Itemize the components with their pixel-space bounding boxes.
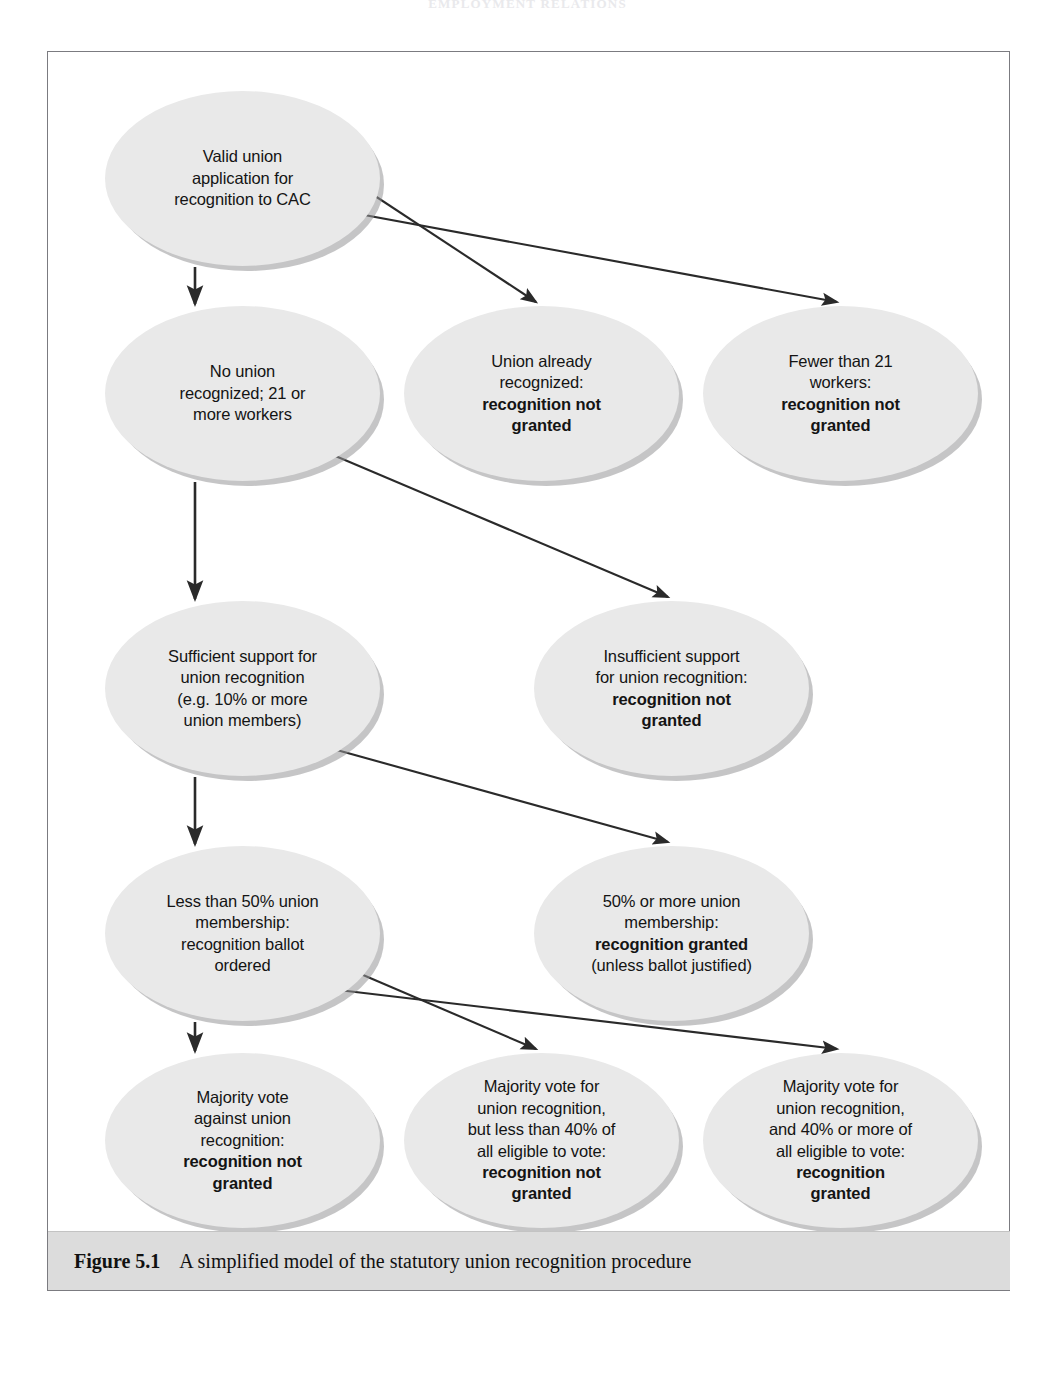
node-label-line: recognition: (200, 1131, 284, 1149)
node-label-line: more workers (193, 405, 292, 423)
node-label-line: all eligible to vote: (477, 1142, 606, 1160)
flowchart-node-majority-against: Majority voteagainst unionrecognition:re… (105, 1053, 380, 1228)
flowchart-node-sufficient-support: Sufficient support forunion recognition(… (105, 601, 380, 776)
node-label-line: all eligible to vote: (776, 1142, 905, 1160)
figure-caption-body: A simplified model of the statutory unio… (179, 1250, 691, 1272)
node-label-line: granted (512, 1184, 572, 1202)
node-label-line: granted (642, 711, 702, 729)
node-label-line: Fewer than 21 (788, 352, 892, 370)
flowchart-node-majority-for-over-40: Majority vote forunion recognition,and 4… (703, 1053, 978, 1228)
node-label: Sufficient support forunion recognition(… (158, 646, 327, 732)
node-label-line: Valid union (203, 147, 282, 165)
node-label: Majority vote forunion recognition,and 4… (759, 1076, 922, 1205)
flowchart-node-less-than-50-percent: Less than 50% unionmembership:recognitio… (105, 846, 380, 1021)
node-label-line: granted (213, 1174, 273, 1192)
node-label-line: union members) (184, 711, 302, 729)
node-label-line: workers: (810, 373, 872, 391)
node-label-line: recognition not (482, 1163, 601, 1181)
flowchart-node-fifty-percent-or-more: 50% or more unionmembership:recognition … (534, 846, 809, 1021)
node-label: Majority vote forunion recognition,but l… (458, 1076, 626, 1205)
node-label-line: recognition not (482, 395, 601, 413)
node-label-line: recognition (796, 1163, 885, 1181)
running-head: EMPLOYMENT RELATIONS (0, 0, 1055, 12)
node-label: No unionrecognized; 21 ormore workers (170, 361, 316, 425)
node-label-line: (e.g. 10% or more (177, 690, 307, 708)
node-label-line: membership: (195, 913, 289, 931)
node-label-line: against union (194, 1109, 291, 1127)
node-label-line: Majority vote (196, 1088, 288, 1106)
node-label-line: recognition ballot (181, 935, 304, 953)
node-label-line: but less than 40% of (468, 1120, 616, 1138)
node-label-line: recognition not (183, 1152, 302, 1170)
node-label-line: granted (811, 1184, 871, 1202)
node-label-line: Majority vote for (484, 1077, 600, 1095)
flowchart-canvas: Valid unionapplication forrecognition to… (48, 52, 1011, 1232)
node-label-line: and 40% or more of (769, 1120, 912, 1138)
node-label-line: ordered (214, 956, 270, 974)
node-label: Valid unionapplication forrecognition to… (164, 146, 321, 210)
node-label: Insufficient supportfor union recognitio… (586, 646, 758, 732)
node-label-line: membership: (624, 913, 718, 931)
node-label-line: recognized: (499, 373, 583, 391)
flowchart-node-fewer-than-21-workers: Fewer than 21workers:recognition notgran… (703, 306, 978, 481)
node-label: 50% or more unionmembership:recognition … (581, 891, 762, 977)
node-label-line: Sufficient support for (168, 647, 317, 665)
node-label-line: recognition granted (595, 935, 748, 953)
node-label-line: Less than 50% union (166, 892, 318, 910)
flowchart-node-union-already-recognized: Union alreadyrecognized:recognition notg… (404, 306, 679, 481)
node-label-line: 50% or more union (603, 892, 741, 910)
figure-caption-band: Figure 5.1 A simplified model of the sta… (48, 1231, 1010, 1290)
node-label-line: recognition to CAC (174, 190, 311, 208)
flowchart-node-insufficient-support: Insufficient supportfor union recognitio… (534, 601, 809, 776)
flowchart-node-no-union-recognized: No unionrecognized; 21 ormore workers (105, 306, 380, 481)
node-label-line: No union (210, 362, 275, 380)
node-label-line: union recognition (181, 668, 305, 686)
node-label-line: union recognition, (776, 1099, 904, 1117)
node-label-line: Insufficient support (603, 647, 739, 665)
node-label: Majority voteagainst unionrecognition:re… (173, 1087, 312, 1194)
node-label-line: recognized; 21 or (180, 384, 306, 402)
node-label-line: (unless ballot justified) (591, 956, 752, 974)
node-label-line: Union already (491, 352, 592, 370)
figure-frame: Valid unionapplication forrecognition to… (47, 51, 1010, 1291)
node-label-line: union recognition, (477, 1099, 605, 1117)
figure-page: EMPLOYMENT RELATIONS Valid unionapplicat… (0, 0, 1055, 1393)
node-label-line: application for (192, 169, 293, 187)
arrow-valid-application-to-fewer-than-21-workers (348, 212, 837, 302)
node-label-line: granted (811, 416, 871, 434)
node-label: Fewer than 21workers:recognition notgran… (771, 351, 910, 437)
figure-caption: Figure 5.1 A simplified model of the sta… (48, 1250, 691, 1273)
node-label-line: for union recognition: (596, 668, 748, 686)
node-label: Union alreadyrecognized:recognition notg… (472, 351, 611, 437)
node-label-line: recognition not (781, 395, 900, 413)
flowchart-node-majority-for-under-40: Majority vote forunion recognition,but l… (404, 1053, 679, 1228)
node-label-line: Majority vote for (783, 1077, 899, 1095)
node-label-line: granted (512, 416, 572, 434)
node-label: Less than 50% unionmembership:recognitio… (156, 891, 328, 977)
node-label-line: recognition not (612, 690, 731, 708)
flowchart-node-valid-application: Valid unionapplication forrecognition to… (105, 91, 380, 266)
figure-caption-spacer (165, 1250, 175, 1272)
figure-caption-label: Figure 5.1 (74, 1250, 160, 1272)
